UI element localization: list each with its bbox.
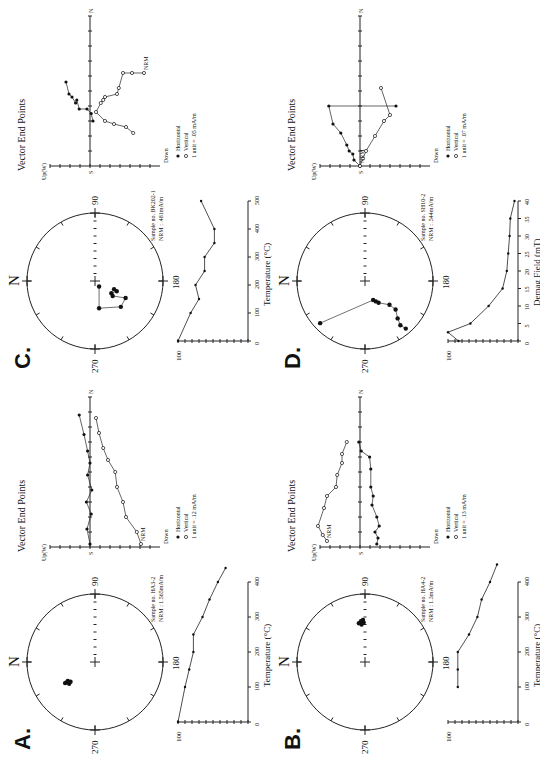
panel-graphics: N90180270Sample no. HA4-2NRM : 1.3mA/m10…: [270, 381, 540, 762]
zijderveld-title: Vector End Points: [286, 480, 297, 552]
y-max-label: 100: [175, 731, 183, 742]
x-tick: 5: [524, 325, 530, 328]
s-label: S: [358, 552, 364, 555]
stereonet: N90180270Sample no. HA3-2NRM : 1.565mA/m: [6, 574, 181, 754]
x-tick: 100: [524, 682, 530, 691]
tick-90: 90: [360, 196, 370, 206]
intensity-decay-plot: 1000100200300400Temperature (°C): [175, 567, 272, 742]
x-tick: 400: [524, 577, 530, 586]
down-label: Down: [163, 148, 169, 163]
legend-unit: 1 unit = .05 mA/m: [191, 113, 197, 158]
tick-270: 270: [360, 740, 370, 754]
panel-d: D.N90180270Sample no. SH10-2NRM : .544mA…: [270, 0, 540, 381]
legend-vertical: Vertical: [453, 132, 459, 151]
zijderveld-title: Vector End Points: [16, 480, 27, 552]
x-tick: 200: [254, 647, 260, 656]
x-tick: 100: [254, 682, 260, 691]
s-label: S: [358, 171, 364, 174]
x-axis-label: Temperature (°C): [532, 624, 540, 687]
up-label: Up(W): [41, 544, 48, 561]
x-tick: 0: [524, 723, 530, 726]
nrm-label: NRM: [143, 56, 149, 70]
x-tick: 40: [524, 199, 530, 205]
down-label: Down: [433, 148, 439, 163]
x-tick: 300: [254, 252, 260, 261]
stereonet: N90180270Sample no. SH10-2NRM : .544mA/m: [276, 194, 451, 373]
nrm-label: NRM: [140, 527, 146, 541]
sample-nrm: NRM : .544mA/m: [428, 196, 434, 241]
sample-nrm: NRM : .481mA/m: [158, 196, 164, 241]
vector-end-points-diagram: Vector End PointsUp(W)SNDownNRMHorizonta…: [16, 389, 197, 561]
x-tick: 10: [524, 304, 530, 310]
x-tick: 35: [524, 217, 530, 223]
legend-unit: 1 unit = .12 mA/m: [191, 494, 197, 539]
legend-unit: 1 unit = .13 mA/m: [461, 494, 467, 539]
vector-end-points-diagram: Vector End PointsUp(W)SNDownNRMHorizonta…: [286, 389, 467, 561]
panel-c: C.N90180270Sample no. BK202-1NRM : .481m…: [0, 0, 270, 381]
x-tick: 0: [254, 723, 260, 726]
tick-270: 270: [90, 740, 100, 754]
x-tick: 200: [524, 647, 530, 656]
zijderveld-title: Vector End Points: [16, 99, 27, 171]
nrm-label: NRM: [359, 149, 365, 163]
nrm-label: NRM: [326, 524, 332, 538]
n-label: N: [358, 8, 364, 13]
down-label: Down: [433, 529, 439, 544]
legend-horizontal: Horizontal: [445, 125, 451, 151]
stereonet: N90180270Sample no. HA4-2NRM : 1.3mA/m: [276, 577, 451, 755]
panel-a: A.N90180270Sample no. HA3-2NRM : 1.565mA…: [0, 381, 270, 762]
legend-horizontal: Horizontal: [175, 506, 181, 532]
up-label: Up(W): [311, 544, 318, 561]
tick-180: 180: [441, 275, 451, 289]
intensity-decay-plot: 1000510152025303540Demag Field (mT): [445, 199, 540, 361]
legend-horizontal: Horizontal: [175, 125, 181, 151]
panel-graphics: N90180270Sample no. HA3-2NRM : 1.565mA/m…: [0, 381, 270, 762]
vector-end-points-diagram: Vector End PointsUp(W)SNDownNRMHorizonta…: [286, 8, 467, 180]
zijderveld-title: Vector End Points: [286, 99, 297, 171]
n-label: N: [88, 389, 94, 394]
n-label: N: [88, 8, 94, 13]
north-label: N: [276, 656, 292, 667]
x-tick: 400: [254, 224, 260, 233]
x-tick: 400: [254, 577, 260, 586]
sample-nrm: NRM : 1.3mA/m: [428, 580, 434, 622]
x-tick: 300: [524, 612, 530, 621]
s-label: S: [88, 552, 94, 555]
legend-unit: 1 unit = .07 mA/m: [461, 113, 467, 158]
x-tick: 100: [254, 308, 260, 317]
sample-number: Sample no. SH10-2: [420, 194, 426, 241]
sample-number: Sample no. BK202-1: [150, 190, 156, 241]
n-label: N: [358, 389, 364, 394]
tick-270: 270: [360, 359, 370, 373]
s-label: S: [88, 171, 94, 174]
x-tick: 500: [254, 196, 260, 205]
up-label: Up(W): [41, 163, 48, 180]
y-max-label: 100: [175, 350, 183, 361]
tick-90: 90: [90, 577, 100, 587]
x-tick: 25: [524, 252, 530, 258]
intensity-decay-plot: 1000100200300400500Temperature (°C): [175, 196, 272, 361]
legend-vertical: Vertical: [453, 513, 459, 532]
intensity-decay-plot: 1000100200300400Temperature (°C): [445, 563, 540, 742]
x-tick: 200: [254, 280, 260, 289]
x-tick: 300: [254, 612, 260, 621]
panel-graphics: N90180270Sample no. SH10-2NRM : .544mA/m…: [270, 0, 540, 381]
north-label: N: [6, 275, 22, 286]
tick-180: 180: [171, 275, 181, 289]
x-tick: 15: [524, 287, 530, 293]
up-label: Up(W): [311, 163, 318, 180]
vector-end-points-diagram: Vector End PointsUp(W)SNDownNRMHorizonta…: [16, 8, 197, 180]
legend-vertical: Vertical: [183, 132, 189, 151]
tick-90: 90: [360, 577, 370, 587]
stereonet: N90180270Sample no. BK202-1NRM : .481mA/…: [6, 190, 181, 373]
x-tick: 0: [524, 342, 530, 345]
y-max-label: 100: [445, 731, 453, 742]
x-tick: 0: [254, 342, 260, 345]
legend-horizontal: Horizontal: [445, 506, 451, 532]
x-tick: 20: [524, 269, 530, 275]
tick-180: 180: [441, 656, 451, 670]
tick-90: 90: [90, 196, 100, 206]
panel-b: B.N90180270Sample no. HA4-2NRM : 1.3mA/m…: [270, 381, 540, 762]
down-label: Down: [163, 529, 169, 544]
